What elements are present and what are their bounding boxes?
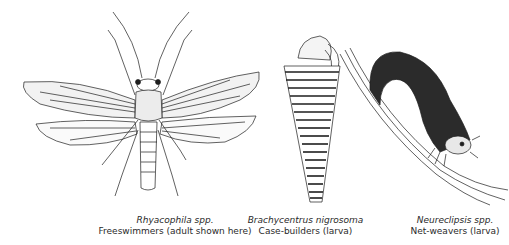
caption-neureclipsis: Neureclipsis spp. Net-weavers (larva) xyxy=(400,215,509,237)
group-description: Case-builders (larva) xyxy=(243,226,368,237)
net-weaver-drawing-icon xyxy=(340,40,509,205)
insect-drawing-icon xyxy=(0,0,260,205)
species-name: Rhyacophila spp. xyxy=(95,215,255,226)
species-name: Brachycentrus nigrosoma xyxy=(243,215,368,226)
caption-rhyacophila: Rhyacophila spp. Freeswimmers (adult sho… xyxy=(95,215,255,237)
species-name: Neureclipsis spp. xyxy=(400,215,509,226)
group-description: Freeswimmers (adult shown here) xyxy=(95,226,255,237)
group-description: Net-weavers (larva) xyxy=(400,226,509,237)
net-weaver-illustration xyxy=(340,40,509,205)
caption-brachycentrus: Brachycentrus nigrosoma Case-builders (l… xyxy=(243,215,368,237)
adult-caddisfly-illustration xyxy=(0,0,260,205)
